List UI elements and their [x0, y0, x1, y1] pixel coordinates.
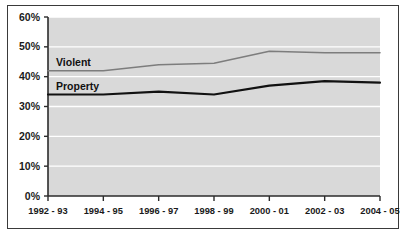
x-axis-tick-labels: 1992 - 931994 - 951996 - 971998 - 992000…: [28, 206, 399, 216]
line-chart: 0%10%20%30%40%50%60% 1992 - 931994 - 951…: [0, 0, 406, 236]
y-tick-label: 40%: [19, 70, 41, 82]
chart-figure: 0%10%20%30%40%50%60% 1992 - 931994 - 951…: [0, 0, 406, 236]
series-label-property: Property: [56, 80, 99, 92]
y-tick-label: 30%: [19, 100, 41, 112]
x-tick-label: 2002 - 03: [305, 206, 344, 216]
y-tick-label: 20%: [19, 130, 41, 142]
x-tick-label: 1996 - 97: [139, 206, 178, 216]
x-tick-label: 1998 - 99: [194, 206, 233, 216]
x-tick-label: 2004 - 05: [360, 206, 399, 216]
x-tick-label: 1994 - 95: [84, 206, 123, 216]
x-tick-label: 2000 - 01: [250, 206, 289, 216]
y-axis-tick-labels: 0%10%20%30%40%50%60%: [19, 11, 41, 202]
y-tick-label: 10%: [19, 160, 41, 172]
y-tick-label: 0%: [25, 190, 41, 202]
y-tick-label: 60%: [19, 11, 41, 23]
series-label-violent: Violent: [56, 56, 91, 68]
x-tick-label: 1992 - 93: [28, 206, 67, 216]
y-tick-label: 50%: [19, 40, 41, 52]
